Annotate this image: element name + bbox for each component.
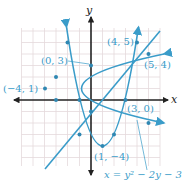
label-0-3: (0, 3) [41, 55, 68, 66]
equation-label: x = y² − 2y − 3 [104, 169, 182, 180]
axes [14, 17, 168, 175]
label-4-5: (4, 5) [107, 36, 134, 47]
label-3-0: (3, 0) [127, 103, 154, 114]
label-1-neg4: (1, −4) [94, 151, 129, 162]
label-5-4: (5, 4) [144, 59, 171, 70]
label-neg4-1: (−4, 1) [3, 83, 38, 94]
x-axis-label: x [171, 93, 178, 106]
graph: x y (0, 3) (4, 5) (5, 4) (−4, 1) (3, 0) … [0, 0, 182, 181]
y-axis-label: y [85, 4, 93, 17]
